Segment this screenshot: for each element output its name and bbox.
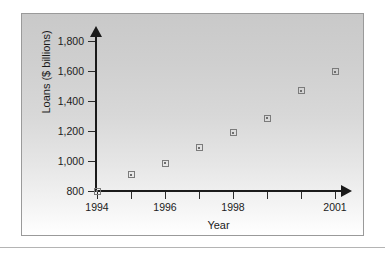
y-axis-tick-label: 1,000: [24, 156, 84, 167]
x-axis-tick-label: 1998: [210, 202, 256, 213]
y-axis-tick: [88, 131, 95, 132]
x-axis-tick: [131, 192, 132, 199]
x-axis-tick: [267, 192, 268, 199]
x-axis-line: [95, 190, 342, 192]
x-axis-tick: [301, 192, 302, 199]
data-point-marker: [230, 129, 237, 136]
y-axis-tick: [88, 101, 95, 102]
data-point-marker: [332, 68, 339, 75]
x-axis-arrow-icon: [341, 185, 352, 197]
x-axis-tick-label: 1994: [74, 202, 120, 213]
y-axis-tick: [88, 41, 95, 42]
data-point-marker: [94, 188, 101, 195]
data-point-marker: [162, 160, 169, 167]
data-point-marker: [128, 171, 135, 178]
y-axis-line: [95, 36, 97, 192]
page-divider-rule: [0, 247, 385, 248]
y-axis-arrow-icon: [90, 26, 102, 37]
x-axis-tick: [233, 192, 234, 199]
plot-area: 8001,0001,2001,4001,6001,800 19941996199…: [22, 14, 364, 236]
y-axis-tick: [88, 161, 95, 162]
x-axis-tick: [335, 192, 336, 199]
y-axis-tick-label: 1,600: [24, 66, 84, 77]
y-axis-tick-label: 1,200: [24, 126, 84, 137]
x-axis-title: Year: [95, 219, 342, 231]
y-axis-title: Loans ($ billions): [40, 13, 52, 142]
y-axis-tick-label: 1,800: [24, 36, 84, 47]
x-axis-tick: [165, 192, 166, 199]
figure-page: 8001,0001,2001,4001,6001,800 19941996199…: [0, 0, 385, 253]
y-axis-tick-label: 1,400: [24, 96, 84, 107]
data-point-marker: [196, 144, 203, 151]
y-axis-tick: [88, 71, 95, 72]
x-axis-tick-label: 2001: [312, 202, 358, 213]
chart-frame: 8001,0001,2001,4001,6001,800 19941996199…: [21, 13, 364, 236]
data-point-marker: [298, 87, 305, 94]
x-axis-tick: [199, 192, 200, 199]
data-point-marker: [264, 115, 271, 122]
x-axis-tick-label: 1996: [142, 202, 188, 213]
y-axis-tick-label: 800: [24, 186, 84, 197]
